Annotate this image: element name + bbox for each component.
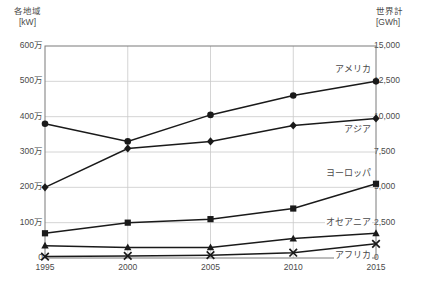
series-label-oceania: オセアニア — [325, 217, 372, 227]
data-point-square — [290, 205, 296, 211]
data-point-circle — [124, 138, 131, 145]
data-point-diamond — [372, 114, 379, 122]
data-point-square — [125, 220, 131, 226]
data-point-diamond — [207, 137, 214, 145]
data-point-circle — [373, 78, 380, 85]
line-chart: 各地域 [kW] 世界計 [GWh] 0100万200万300万400万500万… — [0, 0, 426, 295]
data-point-square — [207, 216, 213, 222]
data-point-diamond — [290, 121, 297, 129]
figure-caption — [12, 286, 312, 295]
series-label-africa: アフリカ — [334, 250, 372, 260]
data-point-circle — [290, 92, 297, 99]
data-point-circle — [42, 120, 49, 127]
series-label-europe: ヨーロッパ — [325, 168, 372, 178]
series-label-asia: アジア — [343, 124, 372, 134]
data-point-square — [373, 181, 379, 187]
data-point-circle — [207, 112, 214, 119]
data-point-diamond — [41, 183, 48, 191]
data-point-square — [42, 230, 48, 236]
data-point-diamond — [124, 144, 131, 152]
series-label-america: アメリカ — [334, 64, 372, 74]
